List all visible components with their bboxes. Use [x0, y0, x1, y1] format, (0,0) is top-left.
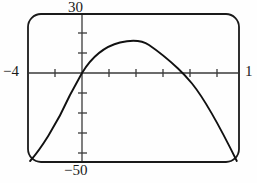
plotted-curve	[30, 41, 237, 161]
viewport-frame	[28, 14, 239, 162]
graph-window: 30 −50 −4 1	[0, 0, 257, 183]
plot-canvas	[0, 0, 257, 183]
y-max-label: 30	[68, 0, 83, 15]
x-max-label: 1	[245, 64, 253, 79]
y-min-label: −50	[64, 163, 87, 178]
x-min-label: −4	[3, 64, 19, 79]
